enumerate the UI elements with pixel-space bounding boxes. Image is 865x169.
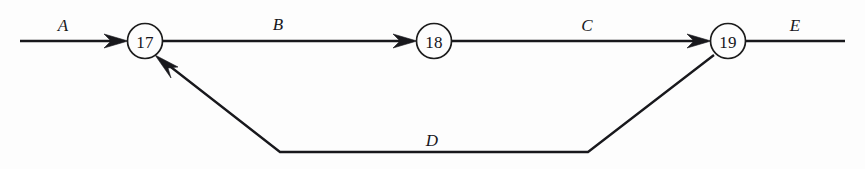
edge-label-d: D [425, 131, 439, 150]
node-19-label: 19 [719, 33, 737, 52]
activity-network-diagram: 17 18 19 A B C D E [0, 0, 865, 169]
edge-b-group[interactable] [162, 34, 417, 48]
edge-d-path [167, 55, 714, 152]
edge-label-c: C [581, 16, 593, 35]
node-17-label: 17 [136, 33, 154, 52]
diagram-canvas: 17 18 19 A B C D E [0, 0, 865, 169]
node-18-label: 18 [425, 33, 443, 52]
node-18[interactable]: 18 [417, 24, 452, 59]
node-19[interactable]: 19 [711, 24, 746, 59]
edge-c-group[interactable] [452, 34, 711, 48]
node-17[interactable]: 17 [128, 24, 163, 59]
edge-d-arrowhead [155, 55, 178, 78]
edge-a-group[interactable] [20, 34, 128, 48]
edge-label-b: B [273, 15, 284, 34]
edge-label-a: A [57, 16, 69, 35]
edge-label-e: E [789, 16, 801, 35]
